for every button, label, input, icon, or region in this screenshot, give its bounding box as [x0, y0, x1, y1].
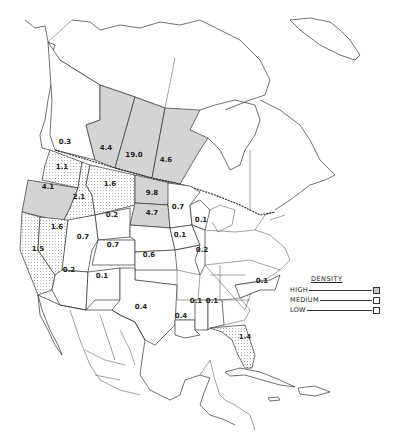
label-alabama: 0.1 [206, 297, 218, 305]
label-idaho: 2.1 [73, 193, 85, 201]
label-kansas: 0.6 [143, 251, 155, 259]
legend-row-medium: MEDIUM [290, 295, 380, 305]
legend-leader-line [309, 290, 372, 291]
legend-title: DENSITY [311, 275, 380, 283]
hudson-bay-coast [200, 100, 260, 170]
label-nevada: 1.6 [51, 223, 63, 231]
label-new-mexico: 0.1 [96, 272, 108, 280]
label-colorado: 0.7 [107, 241, 119, 249]
label-mississippi: 0.1 [190, 297, 202, 305]
label-utah: 0.7 [77, 233, 89, 241]
jamaica [268, 397, 280, 401]
legend-leader-line [320, 300, 372, 301]
label-louisiana: 0.4 [175, 312, 187, 320]
label-alberta: 4.4 [100, 144, 112, 152]
legend-swatch-low [373, 307, 380, 314]
label-saskatchewan: 19.0 [125, 151, 142, 159]
michigan-outline [210, 205, 235, 232]
greenland-coast [290, 18, 360, 60]
hispaniola [298, 386, 330, 396]
label-british-columbia: 0.3 [59, 138, 71, 146]
legend-swatch-medium [373, 297, 380, 304]
label-manitoba: 4.6 [160, 156, 172, 164]
label-arizona: 0.2 [63, 266, 75, 274]
label-california: 1.5 [32, 245, 44, 253]
label-iowa: 0.1 [174, 231, 186, 239]
mexico-states [70, 310, 140, 395]
legend-swatch-high [373, 287, 380, 294]
region-kansas [135, 250, 177, 270]
label-north-dakota: 9.8 [146, 189, 158, 197]
legend-row-low: LOW [290, 305, 380, 315]
label-wyoming: 0.2 [106, 211, 118, 219]
cuba [225, 368, 295, 387]
label-south-dakota: 4.7 [146, 209, 158, 217]
label-illinois: 0.2 [196, 246, 208, 254]
label-minnesota: 0.7 [172, 203, 184, 211]
central-america [200, 360, 255, 430]
legend-row-high: HIGH [290, 285, 380, 295]
density-legend: DENSITY HIGH MEDIUM LOW [290, 275, 380, 315]
alaska-border [48, 20, 72, 42]
label-washington: 1.1 [56, 163, 68, 171]
labrador-coast [260, 100, 335, 210]
legend-label-high: HIGH [290, 286, 308, 294]
label-north-carolina: 0.1 [256, 277, 268, 285]
region-nebraska [130, 225, 175, 252]
legend-label-medium: MEDIUM [290, 296, 319, 304]
legend-label-low: LOW [290, 306, 306, 314]
label-montana: 1.6 [104, 180, 116, 188]
label-florida: 1.4 [239, 333, 251, 341]
legend-leader-line [307, 310, 372, 311]
label-oregon: 4.1 [42, 183, 54, 191]
region-florida [210, 325, 255, 368]
label-wisconsin: 0.1 [195, 216, 207, 224]
label-texas: 0.4 [135, 303, 147, 311]
